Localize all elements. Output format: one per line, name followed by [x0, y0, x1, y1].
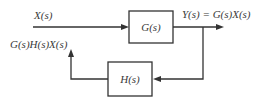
feedback-block-label: H(s) — [119, 73, 140, 86]
feedback-block: H(s) — [108, 62, 152, 96]
forward-block-label: G(s) — [141, 21, 161, 34]
feedback-path-out — [68, 49, 108, 79]
output-arrow — [173, 24, 224, 30]
feedback-signal-label: G(s)H(s)X(s) — [10, 38, 68, 51]
forward-block: G(s) — [129, 11, 173, 43]
output-label: Y(s) = G(s)X(s) — [182, 8, 251, 21]
input-label: X(s) — [33, 9, 53, 22]
block-diagram: X(s) G(s) Y(s) = G(s)X(s) H(s) G(s)H(s)X… — [0, 0, 262, 102]
input-arrow — [33, 24, 129, 30]
